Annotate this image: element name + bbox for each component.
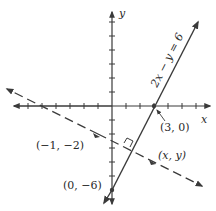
dashed-perpendicular-line [7,89,202,186]
label-3-0: (3, 0) [160,121,190,134]
line-2x-minus-y-equals-6 [104,22,198,203]
point-3-0 [152,104,156,108]
coordinate-diagram: y x 2x − y = 6 (3, 0) (−1, −2) (x, y) (0… [0,0,216,211]
label-0-neg6: (0, −6) [63,179,102,192]
y-axis-label: y [118,7,126,20]
point-0-neg6 [110,188,114,192]
right-angle-marker [124,138,133,147]
label-neg1-neg2: (−1, −2) [36,139,84,152]
x-axis-label: x [201,113,208,126]
label-x-y: (x, y) [158,149,186,162]
pointer-arrow-3-0 [157,110,165,121]
y-axis [109,12,115,204]
